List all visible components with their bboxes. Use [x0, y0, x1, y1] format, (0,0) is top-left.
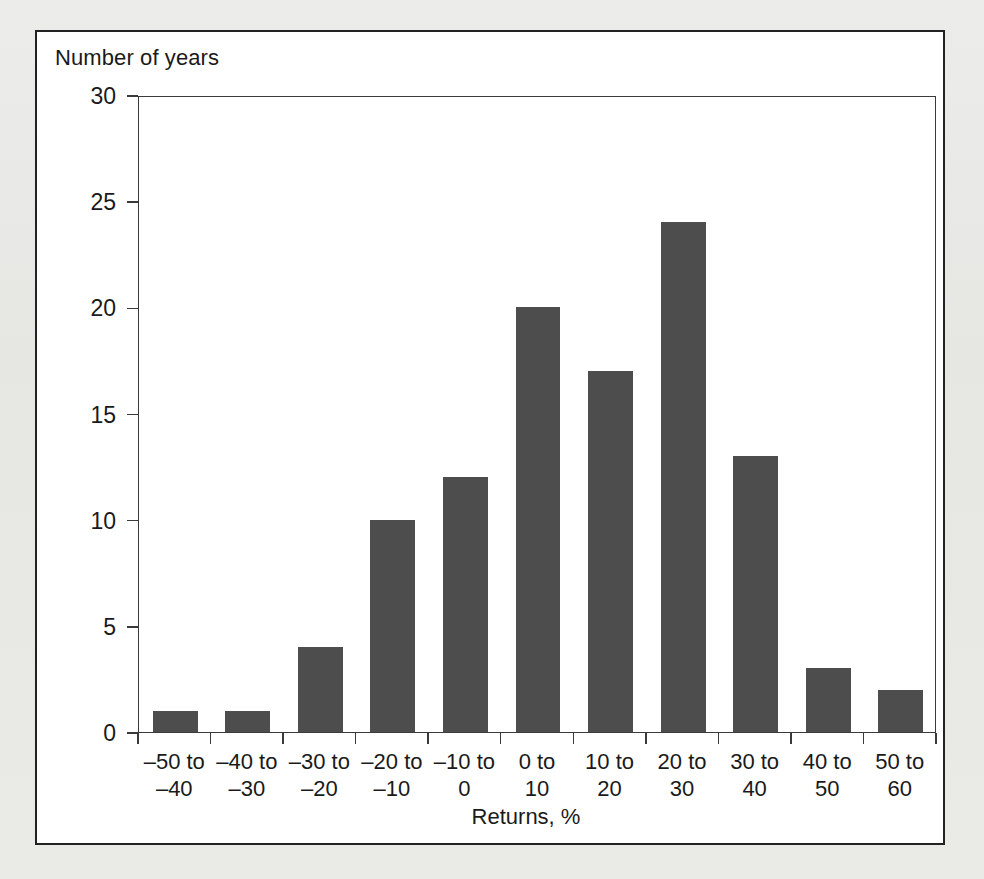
x-axis-tick-label: 50 to60 [875, 748, 924, 802]
x-axis-tick-mark [210, 733, 212, 744]
x-axis-tick-label: –50 to–40 [144, 748, 205, 802]
y-axis-tick-mark [127, 308, 138, 310]
y-axis-tick-mark [127, 95, 138, 97]
y-axis-ticks: 051015202530 [67, 96, 138, 733]
x-axis-tick-labels: –50 to–40–40 to–30–30 to–20–20 to–10–10 … [138, 748, 936, 810]
x-axis-tick-mark [137, 733, 139, 744]
y-axis-title: Number of years [55, 45, 219, 71]
bar [806, 668, 851, 732]
y-axis-tick-label: 25 [90, 189, 116, 216]
x-axis-tick-mark [718, 733, 720, 744]
x-axis-tick-mark [500, 733, 502, 744]
x-axis-title: Returns, % [37, 804, 943, 830]
x-axis-tick-mark [863, 733, 865, 744]
y-axis-tick-mark [127, 520, 138, 522]
y-axis-tick-label: 20 [90, 295, 116, 322]
y-axis-tick-mark [127, 414, 138, 416]
x-axis-title-text: Returns, % [400, 804, 581, 829]
x-axis-tick-mark [790, 733, 792, 744]
x-axis-tick-label: 0 to10 [519, 748, 556, 802]
figure-inner: Number of years 051015202530 –50 to–40–4… [37, 32, 943, 843]
bar [733, 456, 778, 732]
figure-page: Number of years 051015202530 –50 to–40–4… [0, 0, 984, 879]
bar [516, 307, 561, 732]
x-axis-tick-label: –40 to–30 [216, 748, 277, 802]
x-axis-tick-label: 10 to20 [585, 748, 634, 802]
x-axis-tick-mark [282, 733, 284, 744]
figure-frame: Number of years 051015202530 –50 to–40–4… [35, 30, 945, 845]
x-axis-tick-mark [573, 733, 575, 744]
x-axis-tick-label: –30 to–20 [289, 748, 350, 802]
y-axis-tick-label: 30 [90, 83, 116, 110]
x-axis-tick-label: –20 to–10 [361, 748, 422, 802]
y-axis-tick-label: 0 [103, 720, 116, 747]
y-axis-tick-label: 15 [90, 401, 116, 428]
bar [298, 647, 343, 732]
x-axis-tick-label: 20 to30 [658, 748, 707, 802]
bar [225, 711, 270, 732]
bar [370, 520, 415, 732]
x-axis-tick-label: 40 to50 [803, 748, 852, 802]
x-axis-tick-label: –10 to0 [434, 748, 495, 802]
y-axis-tick-label: 10 [90, 507, 116, 534]
bar [588, 371, 633, 732]
x-axis-tick-mark [935, 733, 937, 744]
x-axis-tick-mark [427, 733, 429, 744]
bar [878, 690, 923, 732]
y-axis-tick-mark [127, 201, 138, 203]
plot-area [138, 96, 936, 733]
bar [443, 477, 488, 732]
y-axis-tick-mark [127, 626, 138, 628]
x-axis-tick-label: 30 to40 [730, 748, 779, 802]
bar [153, 711, 198, 732]
x-axis-tick-mark [645, 733, 647, 744]
x-axis-tick-mark [355, 733, 357, 744]
bars-layer [139, 97, 935, 732]
y-axis-tick-label: 5 [103, 613, 116, 640]
bar [661, 222, 706, 732]
x-axis-ticks [138, 733, 936, 747]
